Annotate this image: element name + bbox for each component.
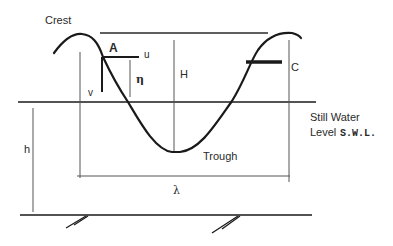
wavelength-label: λ — [173, 184, 180, 197]
eta-label: η — [136, 73, 144, 86]
point-a-label: A — [109, 41, 118, 55]
u-label: u — [144, 49, 150, 60]
celerity-label: C — [291, 61, 299, 73]
crest-label: Crest — [45, 14, 71, 26]
v-label: v — [88, 87, 93, 98]
seabed-hatch-icon — [66, 216, 240, 233]
wave-diagram: Crest A u v η H C h Trough λ Still Water… — [0, 0, 393, 246]
depth-label: h — [24, 143, 30, 155]
swl-label-line2: Level — [310, 126, 336, 138]
trough-label: Trough — [203, 150, 237, 162]
swl-label-line1: Still Water — [310, 111, 360, 123]
wave-height-label: H — [180, 68, 188, 80]
swl-abbrev: S.W.L. — [340, 128, 376, 139]
